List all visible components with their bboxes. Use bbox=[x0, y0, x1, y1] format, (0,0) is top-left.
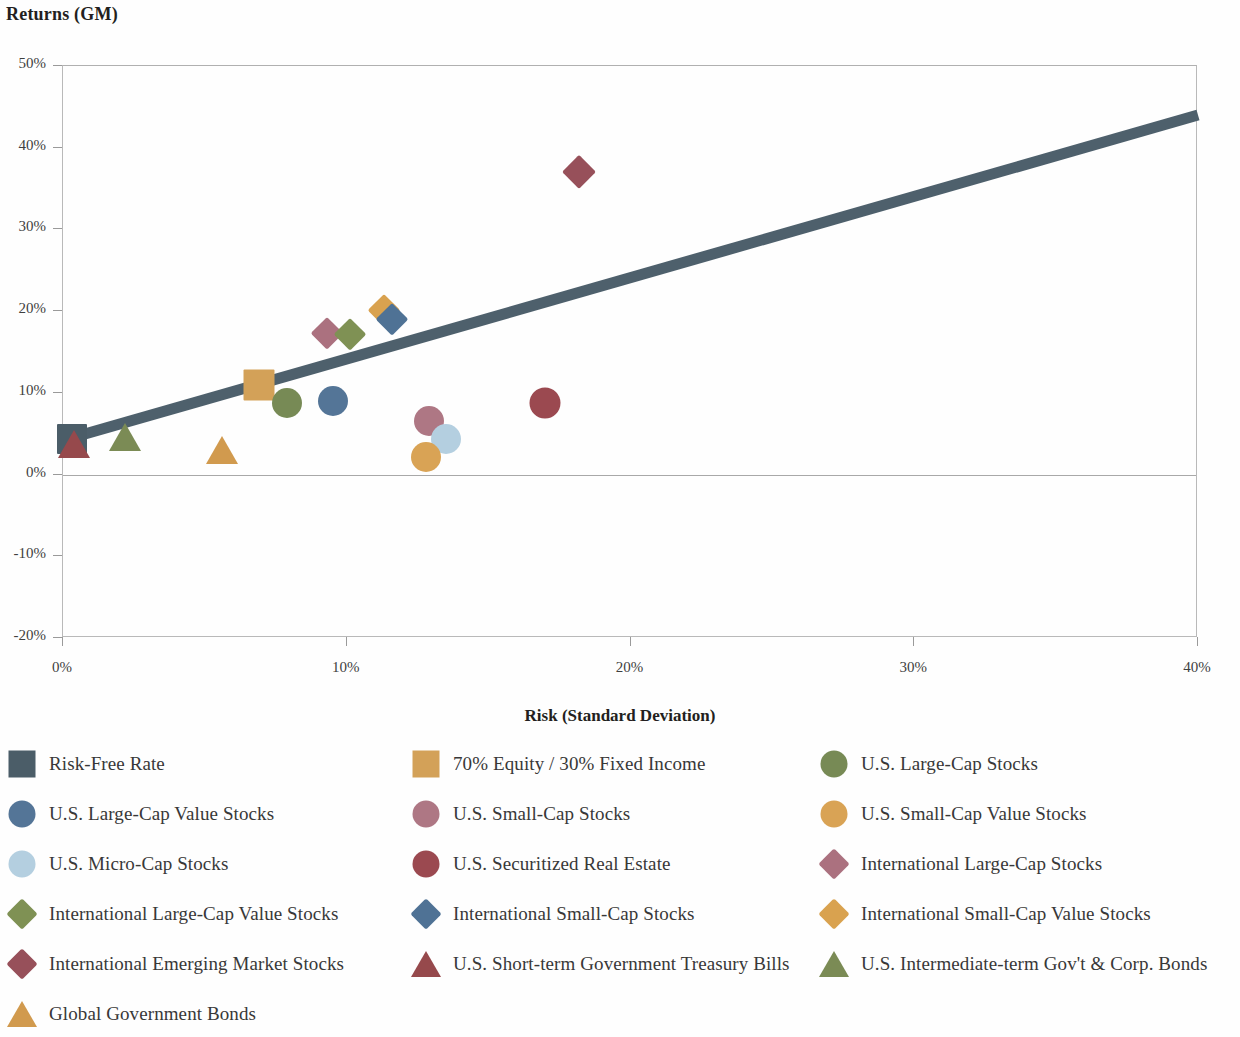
x-axis-tick-mark bbox=[346, 637, 347, 646]
legend-item-label: U.S. Small-Cap Stocks bbox=[453, 803, 630, 825]
legend-diamond-icon bbox=[8, 950, 36, 978]
legend-item[interactable]: U.S. Securitized Real Estate bbox=[412, 848, 671, 880]
triangle-glyph bbox=[819, 951, 849, 977]
legend-item[interactable]: Risk-Free Rate bbox=[8, 748, 165, 780]
legend-item-label: U.S. Small-Cap Value Stocks bbox=[861, 803, 1087, 825]
legend-item[interactable]: U.S. Short-term Government Treasury Bill… bbox=[412, 948, 790, 980]
plot-area bbox=[62, 65, 1197, 637]
data-point-triangle bbox=[206, 436, 238, 464]
legend-circle-icon bbox=[8, 850, 36, 878]
triangle-glyph bbox=[7, 1001, 37, 1027]
data-point-diamond bbox=[562, 155, 596, 189]
data-point-triangle bbox=[58, 430, 90, 458]
data-point-circle bbox=[530, 387, 561, 418]
legend-item-label: International Large-Cap Value Stocks bbox=[49, 903, 338, 925]
data-point-circle bbox=[411, 442, 441, 472]
legend-item-label: U.S. Intermediate-term Gov't & Corp. Bon… bbox=[861, 953, 1207, 975]
y-axis-tick-mark bbox=[53, 228, 62, 229]
x-axis-title: Risk (Standard Deviation) bbox=[0, 706, 1240, 726]
legend-item-label: International Small-Cap Stocks bbox=[453, 903, 695, 925]
legend-item-label: U.S. Short-term Government Treasury Bill… bbox=[453, 953, 790, 975]
legend-item[interactable]: U.S. Micro-Cap Stocks bbox=[8, 848, 228, 880]
square-glyph bbox=[9, 751, 36, 778]
diamond-glyph bbox=[410, 898, 441, 929]
circle-glyph bbox=[9, 801, 36, 828]
y-axis-tick-label: 10% bbox=[0, 382, 46, 399]
x-axis-tick-mark bbox=[1197, 637, 1198, 646]
y-axis-tick-mark bbox=[53, 474, 62, 475]
x-axis-tick-mark bbox=[630, 637, 631, 646]
y-axis-tick-mark bbox=[53, 65, 62, 66]
legend-circle-icon bbox=[412, 850, 440, 878]
y-axis-tick-mark bbox=[53, 392, 62, 393]
x-axis-tick-label: 0% bbox=[52, 659, 72, 676]
legend-item[interactable]: International Large-Cap Stocks bbox=[820, 848, 1102, 880]
y-axis-tick-label: 30% bbox=[0, 218, 46, 235]
legend-diamond-icon bbox=[8, 900, 36, 928]
circle-glyph bbox=[821, 751, 848, 778]
legend-item[interactable]: U.S. Intermediate-term Gov't & Corp. Bon… bbox=[820, 948, 1207, 980]
legend-item[interactable]: International Small-Cap Stocks bbox=[412, 898, 695, 930]
circle-glyph bbox=[9, 851, 36, 878]
legend-circle-icon bbox=[412, 800, 440, 828]
data-point-circle bbox=[318, 386, 348, 416]
y-axis-tick-label: -10% bbox=[0, 545, 46, 562]
diamond-glyph bbox=[818, 898, 849, 929]
legend: Risk-Free Rate70% Equity / 30% Fixed Inc… bbox=[0, 748, 1240, 1033]
y-axis-tick-mark bbox=[53, 147, 62, 148]
legend-item-label: U.S. Securitized Real Estate bbox=[453, 853, 671, 875]
legend-item-label: International Large-Cap Stocks bbox=[861, 853, 1102, 875]
diamond-glyph bbox=[6, 948, 37, 979]
x-axis-tick-label: 30% bbox=[900, 659, 928, 676]
legend-triangle-icon bbox=[412, 950, 440, 978]
page-title: Returns (GM) bbox=[6, 4, 118, 25]
y-axis-tick-mark bbox=[53, 637, 62, 638]
circle-glyph bbox=[413, 851, 440, 878]
trendline bbox=[63, 66, 1198, 638]
y-axis-tick-label: 20% bbox=[0, 300, 46, 317]
y-axis-tick-label: 40% bbox=[0, 137, 46, 154]
diamond-glyph bbox=[6, 898, 37, 929]
legend-triangle-icon bbox=[8, 1000, 36, 1028]
legend-circle-icon bbox=[8, 800, 36, 828]
x-axis-tick-mark bbox=[913, 637, 914, 646]
legend-diamond-icon bbox=[820, 900, 848, 928]
legend-item-label: 70% Equity / 30% Fixed Income bbox=[453, 753, 706, 775]
legend-item[interactable]: International Emerging Market Stocks bbox=[8, 948, 344, 980]
y-axis-tick-mark bbox=[53, 310, 62, 311]
legend-item-label: U.S. Large-Cap Value Stocks bbox=[49, 803, 274, 825]
x-axis-tick-mark bbox=[62, 637, 63, 646]
legend-square-icon bbox=[412, 750, 440, 778]
data-point-diamond bbox=[334, 318, 366, 350]
triangle-glyph bbox=[411, 951, 441, 977]
legend-item[interactable]: U.S. Small-Cap Value Stocks bbox=[820, 798, 1087, 830]
legend-diamond-icon bbox=[820, 850, 848, 878]
y-axis-tick-label: 0% bbox=[0, 464, 46, 481]
legend-item[interactable]: U.S. Small-Cap Stocks bbox=[412, 798, 630, 830]
y-axis-tick-label: -20% bbox=[0, 627, 46, 644]
data-point-triangle bbox=[109, 423, 141, 451]
legend-item[interactable]: 70% Equity / 30% Fixed Income bbox=[412, 748, 706, 780]
legend-triangle-icon bbox=[820, 950, 848, 978]
data-point-square bbox=[243, 369, 274, 400]
x-axis-tick-label: 20% bbox=[616, 659, 644, 676]
legend-item-label: U.S. Large-Cap Stocks bbox=[861, 753, 1038, 775]
legend-item-label: U.S. Micro-Cap Stocks bbox=[49, 853, 228, 875]
chart-page: Returns (GM) 50%40%30%20%10%0%-10%-20% 0… bbox=[0, 0, 1240, 1037]
legend-item-label: International Emerging Market Stocks bbox=[49, 953, 344, 975]
legend-item[interactable]: International Large-Cap Value Stocks bbox=[8, 898, 338, 930]
square-glyph bbox=[413, 751, 440, 778]
legend-item-label: Global Government Bonds bbox=[49, 1003, 256, 1025]
legend-circle-icon bbox=[820, 800, 848, 828]
legend-item[interactable]: International Small-Cap Value Stocks bbox=[820, 898, 1151, 930]
legend-item[interactable]: U.S. Large-Cap Value Stocks bbox=[8, 798, 274, 830]
circle-glyph bbox=[413, 801, 440, 828]
legend-item[interactable]: Global Government Bonds bbox=[8, 998, 256, 1030]
legend-circle-icon bbox=[820, 750, 848, 778]
diamond-glyph bbox=[818, 848, 849, 879]
legend-item[interactable]: U.S. Large-Cap Stocks bbox=[820, 748, 1038, 780]
y-axis-tick-label: 50% bbox=[0, 55, 46, 72]
x-axis-tick-label: 40% bbox=[1183, 659, 1211, 676]
x-axis-tick-label: 10% bbox=[332, 659, 360, 676]
legend-item-label: International Small-Cap Value Stocks bbox=[861, 903, 1151, 925]
